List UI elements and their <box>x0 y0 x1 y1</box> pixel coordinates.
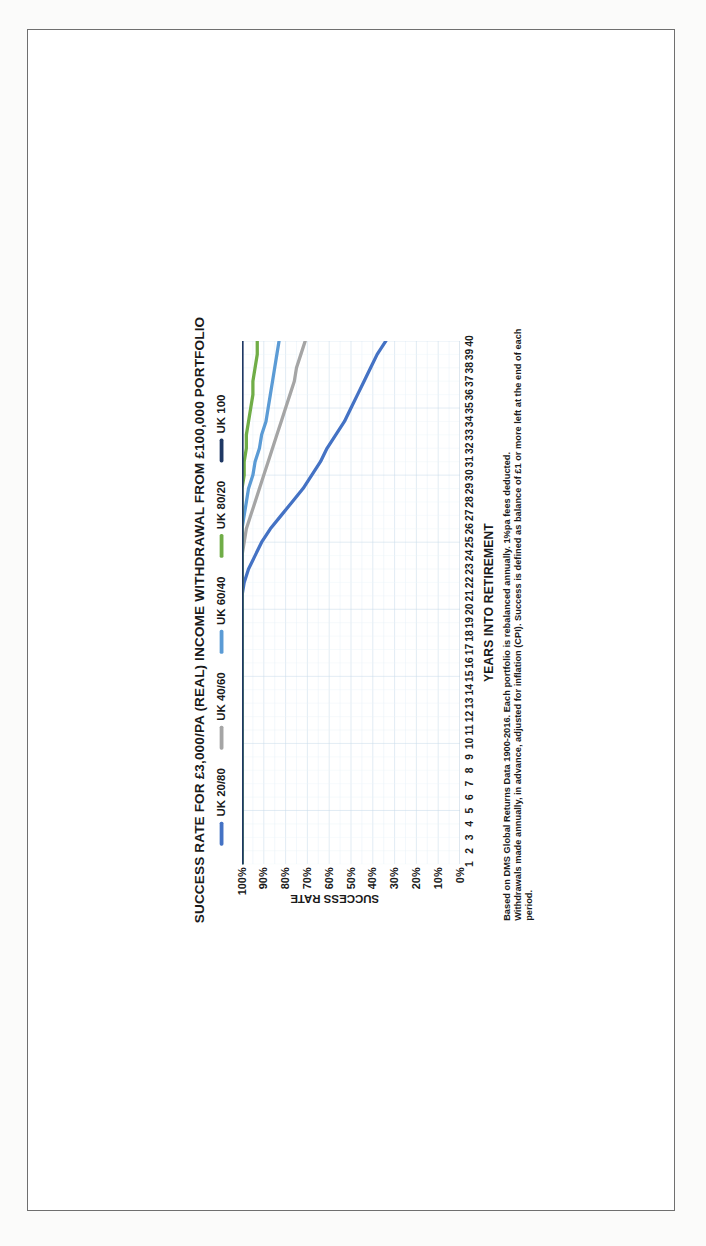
x-tick-label: 6 <box>463 794 475 800</box>
x-tick-label: 10 <box>463 738 475 750</box>
x-tick-label: 12 <box>463 711 475 723</box>
x-tick-label: 15 <box>463 671 475 683</box>
x-tick-label: 2 <box>463 848 475 854</box>
x-tick-label: 14 <box>463 684 475 696</box>
x-tick-label: 39 <box>463 349 475 361</box>
scanned-page: SUCCESS RATE FOR £3,000/PA (REAL) INCOME… <box>0 0 706 1246</box>
legend-swatch-icon <box>219 630 223 654</box>
x-tick-label: 25 <box>463 536 475 548</box>
x-tick-label: 5 <box>463 808 475 814</box>
x-tick-label: 24 <box>463 550 475 562</box>
legend-item-uk-100[interactable]: UK 100 <box>215 395 228 463</box>
x-tick-label: 21 <box>463 590 475 602</box>
y-tick-label: 20% <box>410 867 423 905</box>
x-tick-label: 3 <box>463 834 475 840</box>
x-tick-label: 4 <box>463 821 475 827</box>
legend-swatch-icon <box>219 726 223 750</box>
x-tick-label: 8 <box>463 767 475 773</box>
x-tick-label: 16 <box>463 657 475 669</box>
y-tick-label: 90% <box>258 867 271 905</box>
x-tick-label: 34 <box>463 416 475 428</box>
x-tick-label: 31 <box>463 456 475 468</box>
chart-title: SUCCESS RATE FOR £3,000/PA (REAL) INCOME… <box>192 315 208 925</box>
y-tick-label: 10% <box>432 867 445 905</box>
chart-lines <box>242 341 460 864</box>
x-tick-label: 23 <box>463 563 475 575</box>
legend-item-uk-60-40[interactable]: UK 60/40 <box>215 577 228 654</box>
x-tick-label: 27 <box>463 510 475 522</box>
x-axis-tick-labels: 1234567891011121314151617181920212223242… <box>463 341 479 864</box>
y-axis-title: SUCCESS RATE <box>275 893 395 906</box>
legend-item-uk-20-80[interactable]: UK 20/80 <box>215 768 228 845</box>
legend-label: UK 60/40 <box>215 577 228 625</box>
x-tick-label: 11 <box>463 725 475 736</box>
legend-swatch-icon <box>219 821 223 845</box>
x-tick-label: 32 <box>463 443 475 455</box>
page-sheet: SUCCESS RATE FOR £3,000/PA (REAL) INCOME… <box>27 29 675 1211</box>
footnote-line-1: Based on DMS Global Returns Data 1900-20… <box>501 316 512 921</box>
x-tick-label: 9 <box>463 754 475 760</box>
x-tick-label: 7 <box>463 781 475 787</box>
x-tick-label: 35 <box>463 402 475 414</box>
y-tick-label: 100% <box>236 867 249 905</box>
legend-label: UK 20/80 <box>215 768 228 816</box>
x-tick-label: 28 <box>463 496 475 508</box>
legend-item-uk-80-20[interactable]: UK 80/20 <box>215 481 228 558</box>
x-tick-label: 37 <box>463 375 475 387</box>
legend-swatch-icon <box>219 534 223 558</box>
chart-legend: UK 20/80UK 40/60UK 60/40UK 80/20UK 100 <box>215 315 228 925</box>
x-tick-label: 22 <box>463 577 475 589</box>
legend-swatch-icon <box>219 438 223 462</box>
legend-label: UK 80/20 <box>215 481 228 529</box>
x-tick-label: 30 <box>463 469 475 481</box>
series-line-uk-40-60 <box>242 341 305 864</box>
x-tick-label: 26 <box>463 523 475 535</box>
series-line-uk-80-20 <box>242 341 257 864</box>
legend-label: UK 40/60 <box>215 672 228 720</box>
x-tick-label: 18 <box>463 630 475 642</box>
x-tick-label: 13 <box>463 697 475 709</box>
x-tick-label: 36 <box>463 389 475 401</box>
x-tick-label: 19 <box>463 617 475 629</box>
x-tick-label: 17 <box>463 644 475 656</box>
legend-label: UK 100 <box>215 395 228 434</box>
plot-area <box>242 341 460 864</box>
legend-item-uk-40-60[interactable]: UK 40/60 <box>215 672 228 749</box>
x-tick-label: 29 <box>463 483 475 495</box>
x-tick-label: 40 <box>463 335 475 347</box>
rotated-chart-container: SUCCESS RATE FOR £3,000/PA (REAL) INCOME… <box>188 315 515 925</box>
x-tick-label: 33 <box>463 429 475 441</box>
footnote-line-2: Withdrawals made annually, in advance, a… <box>513 316 535 921</box>
x-tick-label: 38 <box>463 362 475 374</box>
x-tick-label: 20 <box>463 604 475 616</box>
y-tick-label: 0% <box>454 867 467 905</box>
x-axis-title: YEARS INTO RETIREMENT <box>482 341 496 864</box>
x-tick-label: 1 <box>463 861 475 867</box>
